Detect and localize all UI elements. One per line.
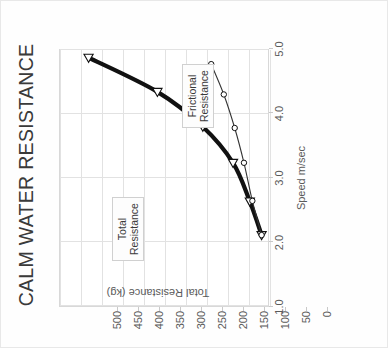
x-tick-label: 2.0 bbox=[273, 235, 285, 250]
x-tick-mark bbox=[269, 177, 273, 178]
x-tick-label: 1.0 bbox=[273, 299, 285, 314]
plot-area: Total Resistance Frictional Resistance bbox=[59, 49, 269, 307]
x-tick-mark bbox=[269, 113, 273, 114]
y-tick-label: 250 bbox=[216, 311, 228, 348]
data-point-marker bbox=[250, 198, 255, 203]
y-tick-mark bbox=[327, 307, 328, 311]
y-tick-label: 300 bbox=[195, 311, 207, 348]
y-tick-mark bbox=[117, 307, 118, 311]
y-tick-mark bbox=[243, 307, 244, 311]
y-tick-label: 500 bbox=[111, 311, 123, 348]
chart-figure: CALM WATER RESISTANCE bbox=[1, 1, 388, 348]
y-tick-label: 150 bbox=[258, 311, 270, 348]
y-tick-mark bbox=[180, 307, 181, 311]
x-tick-label: 5.0 bbox=[273, 41, 285, 56]
y-axis-label: Total Resistance (kg) bbox=[58, 287, 258, 299]
y-tick-label: 400 bbox=[153, 311, 165, 348]
y-tick-label: 100 bbox=[279, 311, 291, 348]
data-series-layer bbox=[60, 48, 270, 306]
annotation-total-resistance: Total Resistance bbox=[112, 197, 144, 261]
y-tick-mark bbox=[306, 307, 307, 311]
x-tick-mark bbox=[269, 48, 273, 49]
x-tick-label: 3.0 bbox=[273, 170, 285, 185]
y-tick-label: 0 bbox=[321, 311, 333, 348]
y-tick-mark bbox=[285, 307, 286, 311]
y-tick-mark bbox=[222, 307, 223, 311]
plot-wrapper: Total Resistance Frictional Resistance 0… bbox=[59, 49, 269, 307]
figure-page: CALM WATER RESISTANCE bbox=[0, 0, 388, 348]
x-tick-mark bbox=[269, 306, 273, 307]
x-tick-label: 4.0 bbox=[273, 106, 285, 121]
data-point-marker bbox=[259, 232, 264, 237]
y-tick-label: 450 bbox=[132, 311, 144, 348]
data-point-marker bbox=[232, 125, 237, 130]
y-tick-mark bbox=[201, 307, 202, 311]
x-tick-mark bbox=[269, 242, 273, 243]
y-tick-label: 200 bbox=[237, 311, 249, 348]
y-tick-mark bbox=[138, 307, 139, 311]
y-tick-label: 50 bbox=[300, 311, 312, 348]
gridline-y-0 bbox=[270, 50, 271, 306]
data-point-marker bbox=[221, 92, 226, 97]
data-point-marker bbox=[241, 160, 246, 165]
annotation-frictional-resistance: Frictional Resistance bbox=[182, 64, 214, 128]
x-axis-label: Speed m/sec bbox=[295, 49, 307, 307]
chart-title: CALM WATER RESISTANCE bbox=[15, 1, 38, 348]
y-tick-label: 350 bbox=[174, 311, 186, 348]
y-tick-mark bbox=[264, 307, 265, 311]
y-tick-mark bbox=[159, 307, 160, 311]
series-line-2 bbox=[211, 64, 261, 235]
